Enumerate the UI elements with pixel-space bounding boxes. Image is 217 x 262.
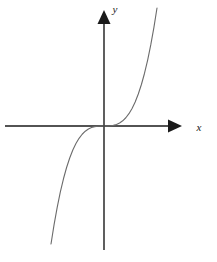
cubic-function-plot: x y [0,0,217,262]
plot-background [0,0,217,262]
y-axis-label: y [112,3,118,15]
x-axis-label: x [196,121,202,133]
graph-figure: x y [0,0,217,262]
